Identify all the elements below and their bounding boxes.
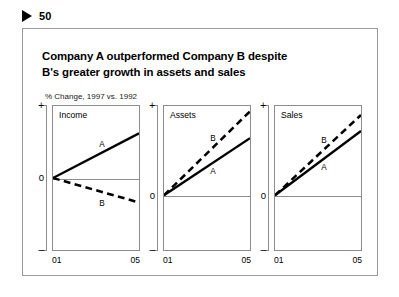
x-axis-labels: 01 05 xyxy=(52,256,140,268)
series-label-b: B xyxy=(99,200,104,208)
page-number: 50 xyxy=(39,11,52,22)
axis-label-zero: 0 xyxy=(144,191,155,201)
chart-sales: + 0 – Sales A B 01 05 xyxy=(259,105,363,265)
page-header: 50 xyxy=(22,8,52,24)
x-label-end: 05 xyxy=(130,256,140,265)
axis-label-zero: 0 xyxy=(255,191,266,201)
series-label-a: A xyxy=(99,141,104,149)
triangle-right-icon xyxy=(22,10,32,22)
axis-label-plus: + xyxy=(255,101,266,111)
series-lines xyxy=(275,106,361,250)
slide-frame: Company A outperformed Company B despite… xyxy=(22,28,378,276)
chart-row: + 0 – Income A B 01 05 + 0 – xyxy=(31,105,371,265)
plot-panel: Assets A B xyxy=(163,105,251,251)
value-axis xyxy=(268,105,269,251)
x-label-start: 01 xyxy=(163,256,173,265)
series-lines xyxy=(164,106,250,250)
x-label-end: 05 xyxy=(241,256,251,265)
slide-title-line2: B's greater growth in assets and sales xyxy=(42,65,360,81)
plot-panel: Income A B xyxy=(52,105,140,251)
series-label-a: A xyxy=(321,164,326,172)
chart-assets: + 0 – Assets A B 01 05 xyxy=(148,105,252,265)
value-axis xyxy=(157,105,158,251)
series-label-b: B xyxy=(210,135,215,143)
slide-subtitle: % Change, 1997 vs. 1992 xyxy=(45,93,137,101)
axis-label-plus: + xyxy=(33,101,44,111)
x-axis-labels: 01 05 xyxy=(163,256,251,268)
series-label-a: A xyxy=(210,168,215,176)
axis-label-minus: – xyxy=(255,245,266,255)
x-label-end: 05 xyxy=(352,256,362,265)
axis-label-minus: – xyxy=(33,245,44,255)
series-lines xyxy=(53,106,139,250)
axis-label-zero: 0 xyxy=(33,173,44,183)
series-label-b: B xyxy=(321,137,326,145)
value-axis xyxy=(46,105,47,251)
slide-title-line1: Company A outperformed Company B despite xyxy=(42,50,287,62)
x-label-start: 01 xyxy=(52,256,62,265)
slide-title: Company A outperformed Company B despite… xyxy=(42,49,360,80)
axis-label-minus: – xyxy=(144,245,155,255)
axis-label-plus: + xyxy=(144,101,155,111)
chart-income: + 0 – Income A B 01 05 xyxy=(37,105,141,265)
x-label-start: 01 xyxy=(274,256,284,265)
x-axis-labels: 01 05 xyxy=(274,256,362,268)
plot-panel: Sales A B xyxy=(274,105,362,251)
